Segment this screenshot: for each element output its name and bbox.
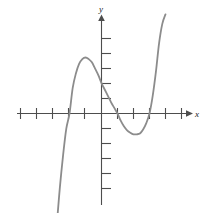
y-axis-label: y <box>98 4 103 14</box>
cubic-function-plot: x y <box>0 0 209 213</box>
x-axis-label: x <box>194 109 199 119</box>
graph-figure: x y <box>0 0 209 213</box>
x-axis-arrowhead <box>186 110 193 117</box>
y-axis-arrowhead <box>98 15 105 22</box>
